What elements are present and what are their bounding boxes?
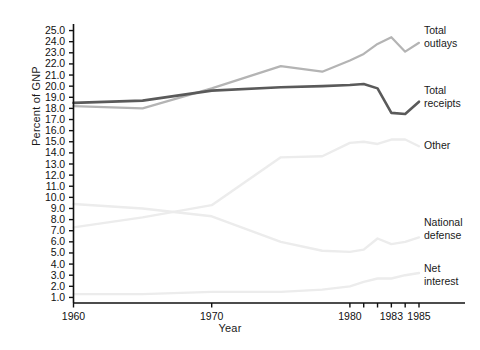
series-line [74,37,420,108]
series-label-other: Other [424,139,450,152]
x-axis-title: Year [170,322,290,334]
series-label-total-receipts: Totalreceipts [424,84,461,109]
series-label-line: defense [424,229,463,242]
series-label-line: interest [424,275,458,288]
series-label-national-defense: Nationaldefense [424,216,463,241]
series-label-net-interest: Netinterest [424,262,458,287]
series-line [74,140,420,228]
series-group [74,37,420,294]
series-line [74,273,420,294]
series-label-line: Net [424,262,458,275]
chart-container: Percent of GNP Year 25.024.023.022.021.0… [0,0,480,350]
x-tick-label: 1985 [389,310,449,322]
x-tick-label: 1970 [182,310,242,322]
series-label-line: Total [424,84,461,97]
series-label-line: Other [424,139,450,152]
y-tick-label: 1.0 [21,291,65,303]
series-label-line: Total [424,24,457,37]
series-label-line: receipts [424,97,461,110]
series-label-total-outlays: Totaloutlays [424,24,457,49]
series-label-line: outlays [424,37,457,50]
series-line [74,204,420,252]
series-label-line: National [424,216,463,229]
series-line [74,84,420,114]
chart-plot-area [0,0,480,350]
x-tick-label: 1960 [44,310,104,322]
